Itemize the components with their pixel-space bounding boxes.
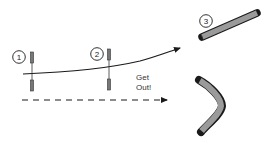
gate-1 <box>31 52 34 91</box>
marker-1: 1 <box>13 51 26 64</box>
gate-2-top-post <box>108 49 111 60</box>
marker-2: 2 <box>91 48 104 61</box>
diagram-canvas: 1 2 3 Get Out! <box>0 0 274 151</box>
gate-1-top-post <box>31 52 34 63</box>
marker-1-label: 1 <box>17 53 22 62</box>
marker-3: 3 <box>200 15 213 28</box>
marker-2-label: 2 <box>95 50 100 59</box>
curved-pipe <box>199 80 222 132</box>
gate-2-bottom-post <box>108 79 111 90</box>
marker-3-label: 3 <box>204 17 209 26</box>
get-out-label-line2: Out! <box>136 83 151 92</box>
get-out-label-line1: Get <box>136 73 150 82</box>
gate-2 <box>108 49 111 90</box>
gate-1-bottom-post <box>31 80 34 91</box>
